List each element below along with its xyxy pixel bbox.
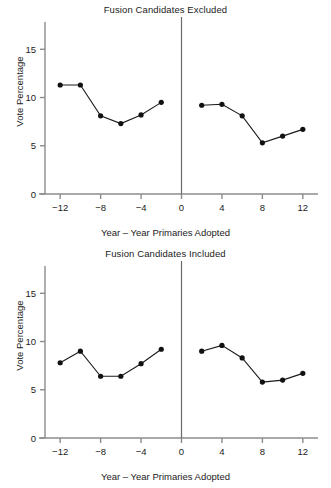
- data-point: [260, 140, 265, 145]
- data-point: [219, 102, 224, 107]
- data-point: [98, 113, 103, 118]
- data-point: [199, 103, 204, 108]
- x-tick-label: 12: [298, 202, 309, 213]
- panel-top-svg: 051015−12−8−404812: [0, 0, 331, 244]
- x-tick-label: 4: [219, 446, 224, 457]
- series-line: [202, 104, 303, 143]
- panel-top-plot: 051015−12−8−404812: [0, 0, 331, 244]
- x-tick-label: 4: [219, 202, 224, 213]
- x-tick-label: −8: [95, 202, 106, 213]
- x-tick-label: 0: [179, 446, 184, 457]
- data-point: [280, 134, 285, 139]
- data-point: [300, 371, 305, 376]
- panel-bottom: Fusion Candidates Included Vote Percenta…: [0, 244, 331, 488]
- x-tick-label: −12: [52, 202, 68, 213]
- data-point: [159, 347, 164, 352]
- x-tick-label: 8: [260, 202, 265, 213]
- data-point: [240, 113, 245, 118]
- y-tick-label: 15: [25, 44, 36, 55]
- data-point: [58, 360, 63, 365]
- data-point: [219, 343, 224, 348]
- data-point: [58, 82, 63, 87]
- panel-bottom-svg: 051015−12−8−404812: [0, 244, 331, 488]
- data-point: [78, 349, 83, 354]
- x-tick-label: −4: [136, 202, 147, 213]
- y-tick-label: 0: [31, 189, 36, 200]
- x-tick-label: −4: [136, 446, 147, 457]
- panel-top: Fusion Candidates Excluded Vote Percenta…: [0, 0, 331, 244]
- data-point: [280, 378, 285, 383]
- y-tick-label: 10: [25, 336, 36, 347]
- x-tick-label: 12: [298, 446, 309, 457]
- series-line: [60, 85, 161, 124]
- x-tick-label: −8: [95, 446, 106, 457]
- x-tick-label: −12: [52, 446, 68, 457]
- data-point: [240, 355, 245, 360]
- data-point: [98, 374, 103, 379]
- data-point: [138, 112, 143, 117]
- data-point: [118, 374, 123, 379]
- data-point: [300, 127, 305, 132]
- data-point: [138, 361, 143, 366]
- x-tick-label: 0: [179, 202, 184, 213]
- series-line: [202, 345, 303, 382]
- data-point: [260, 379, 265, 384]
- data-point: [78, 82, 83, 87]
- figure-container: Fusion Candidates Excluded Vote Percenta…: [0, 0, 331, 488]
- data-point: [199, 349, 204, 354]
- series-line: [60, 349, 161, 376]
- y-tick-label: 5: [31, 384, 36, 395]
- y-tick-label: 15: [25, 288, 36, 299]
- y-tick-label: 5: [31, 140, 36, 151]
- panel-bottom-plot: 051015−12−8−404812: [0, 244, 331, 488]
- y-tick-label: 10: [25, 92, 36, 103]
- y-tick-label: 0: [31, 433, 36, 444]
- data-point: [159, 100, 164, 105]
- data-point: [118, 121, 123, 126]
- x-tick-label: 8: [260, 446, 265, 457]
